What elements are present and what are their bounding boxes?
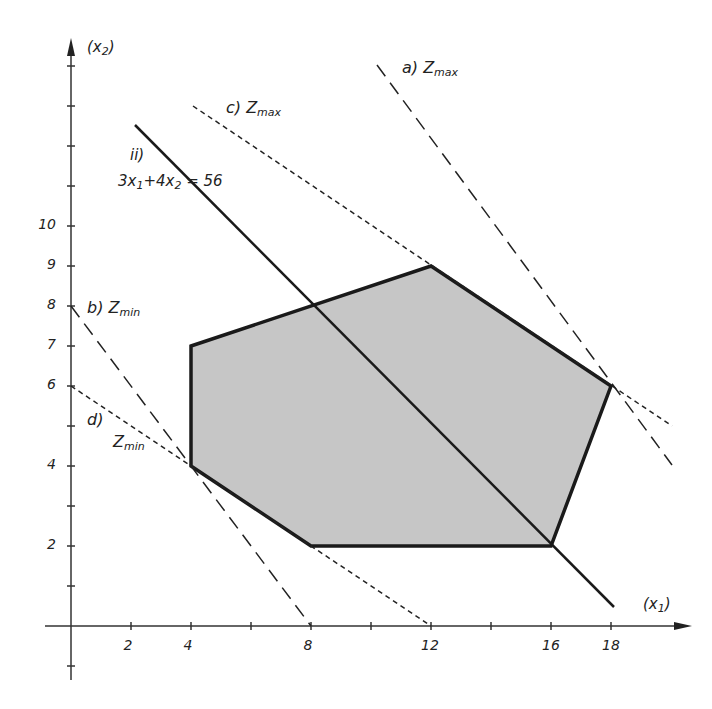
annotation-ii: ii) (130, 146, 144, 164)
annotation-c-zmax: c) Zmax (226, 98, 281, 119)
annotation-a-zmax: a) Zmax (402, 58, 458, 79)
x-tick-label: 4 (184, 637, 193, 653)
annotation-d: d) (87, 410, 103, 429)
x-axis-arrow-icon (674, 622, 692, 630)
y-tick-label: 2 (26, 536, 56, 552)
x-tick-label: 18 (602, 637, 620, 653)
x-tick-label: 16 (542, 637, 560, 653)
y-tick-label: 4 (26, 456, 56, 472)
x-axis-label: (x1) (643, 595, 671, 615)
x-tick-label: 2 (124, 637, 133, 653)
y-tick-label: 9 (26, 256, 56, 272)
feasible-region (191, 266, 611, 546)
y-axis-arrow-icon (67, 38, 75, 56)
y-axis-label: (x2) (87, 38, 115, 58)
y-tick-label: 7 (26, 336, 56, 352)
annotation-b-zmin: b) Zmin (87, 298, 140, 319)
x-tick-label: 8 (304, 637, 313, 653)
y-tick-label: 8 (26, 296, 56, 312)
lp-graph (0, 0, 712, 709)
x-tick-label: 12 (421, 637, 439, 653)
annotation-equation: 3x1+4x2 = 56 (118, 172, 223, 192)
y-tick-label: 10 (26, 216, 56, 232)
annotation-d-zmin: Zmin (113, 432, 145, 453)
y-tick-label: 6 (26, 376, 56, 392)
